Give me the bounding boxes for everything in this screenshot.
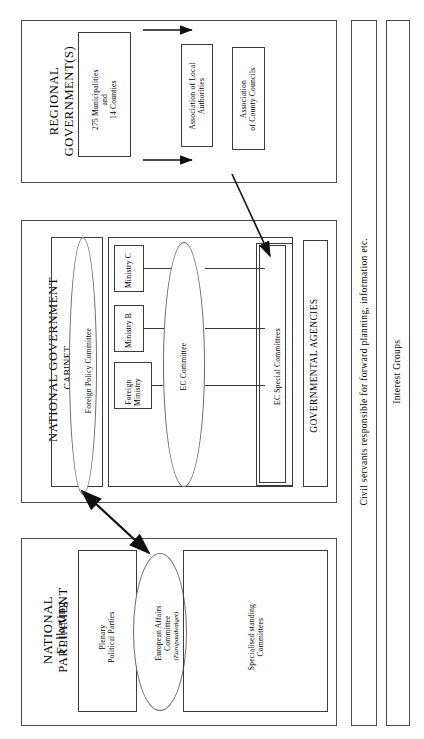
- governmental-agencies-label: GOVERNMENTAL AGENCIES: [309, 296, 320, 436]
- specialised-standing-committees-label: Specialised standing Committees: [247, 592, 265, 682]
- interest-groups-label: Interest Groups: [392, 332, 403, 412]
- ec-committee-label: EC Committee: [179, 334, 188, 400]
- ministry-b-label: Ministry B: [124, 306, 133, 356]
- municipalities-label: 275 Municipalities and 14 Counties: [91, 60, 118, 140]
- association-local-authorities-label: Association of Local Authorities: [188, 56, 206, 136]
- foreign-policy-committee-label: Foreign Policy Committee: [84, 316, 93, 426]
- plenary-political-parties-label: Plenary Political Parties: [98, 597, 116, 677]
- ec-special-committees-label: EC Special Committees: [273, 317, 282, 417]
- civil-servants-label: Civil servants responsible for forward p…: [359, 202, 370, 542]
- association-county-councils-label: Association of County Councils: [239, 59, 257, 139]
- diagram-canvas: REGIONAL GOVERNMENT(S) 275 Municipalitie…: [0, 0, 424, 739]
- ministry-c-label: Ministry C: [124, 246, 133, 296]
- national-parliament-subtitle: Folketing: [54, 568, 69, 688]
- regional-government-title: REGIONAL GOVERNMENT(S): [47, 31, 77, 171]
- european-affairs-committee-label: European Affairs Committee: [154, 593, 172, 673]
- foreign-ministry-label: Foreign Ministry: [124, 367, 142, 417]
- european-affairs-committee-native-label: (Europaudvalget): [172, 596, 180, 676]
